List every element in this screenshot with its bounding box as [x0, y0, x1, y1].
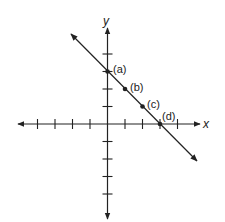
point-c: [140, 104, 145, 109]
point-b: [123, 87, 128, 92]
coordinate-plane: (a) (b) (c) (d) x y: [0, 0, 225, 222]
point-a: [105, 69, 110, 74]
point-d: [158, 122, 163, 127]
label-d: (d): [162, 110, 175, 122]
label-b: (b): [130, 81, 143, 93]
x-axis-label: x: [202, 117, 210, 131]
y-axis-label: y: [102, 14, 110, 28]
label-c: (c): [147, 98, 160, 110]
line-y-equals-3-minus-x: [71, 34, 197, 161]
label-a: (a): [113, 63, 126, 75]
